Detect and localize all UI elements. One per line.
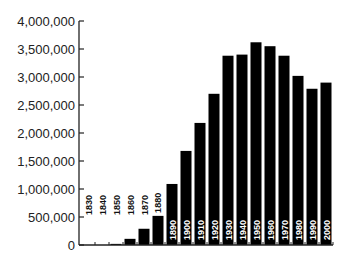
bar-label-1950: 1950 [252, 220, 262, 240]
bar-1970 [279, 56, 290, 245]
y-tick-label: 3,500,000 [17, 42, 75, 57]
bar-label-1990: 1990 [308, 220, 318, 240]
bar-label-1910: 1910 [196, 220, 206, 240]
y-tick-label: 4,000,000 [17, 14, 75, 29]
y-axis: 0500,0001,000,0001,500,0002,000,0002,500… [17, 14, 84, 253]
bars: 1830184018501860187018801890190019101920… [84, 42, 332, 245]
bar-label-1960: 1960 [266, 220, 276, 240]
y-tick-label: 2,000,000 [17, 126, 75, 141]
bar-label-1930: 1930 [224, 220, 234, 240]
bar-chart: 0500,0001,000,0001,500,0002,000,0002,500… [0, 0, 351, 270]
y-tick-label: 3,000,000 [17, 70, 75, 85]
bar-label-1940: 1940 [238, 220, 248, 240]
bar-label-1980: 1980 [294, 220, 304, 240]
bar-label-1840: 1840 [98, 195, 108, 215]
bar-1880 [153, 216, 164, 245]
bar-label-2000: 2000 [322, 220, 332, 240]
chart-canvas: 0500,0001,000,0001,500,0002,000,0002,500… [0, 0, 351, 270]
bar-label-1970: 1970 [280, 220, 290, 240]
y-tick-label: 500,000 [28, 210, 75, 225]
y-tick-label: 2,500,000 [17, 98, 75, 113]
bar-1870 [139, 229, 150, 245]
bar-label-1850: 1850 [112, 195, 122, 215]
bar-1950 [251, 42, 262, 245]
bar-label-1870: 1870 [140, 195, 150, 215]
bar-label-1860: 1860 [126, 195, 136, 215]
bar-1930 [223, 56, 234, 245]
bar-1860 [125, 239, 136, 245]
bar-label-1900: 1900 [182, 220, 192, 240]
bar-1940 [237, 55, 248, 245]
y-tick-label: 0 [68, 238, 75, 253]
bar-1980 [293, 76, 304, 245]
bar-label-1890: 1890 [168, 220, 178, 240]
bar-label-1880: 1880 [154, 193, 164, 213]
bar-label-1920: 1920 [210, 220, 220, 240]
bar-1960 [265, 46, 276, 245]
y-tick-label: 1,500,000 [17, 154, 75, 169]
bar-label-1830: 1830 [84, 195, 94, 215]
y-tick-label: 1,000,000 [17, 182, 75, 197]
